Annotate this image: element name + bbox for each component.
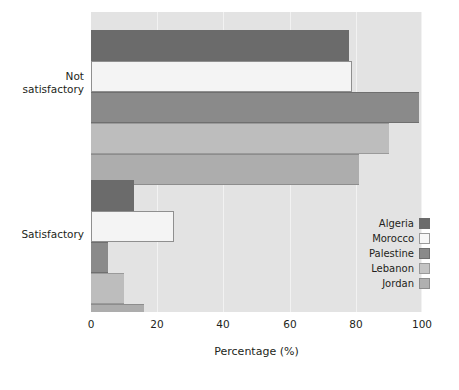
legend-item-lebanon: Lebanon xyxy=(330,261,430,276)
chart-figure: Not satisfactory Satisfactory 0 20 40 60… xyxy=(0,0,459,390)
bar-not-satisfactory-palestine xyxy=(91,92,419,123)
legend-swatch-jordan-icon xyxy=(419,278,430,289)
legend-item-jordan: Jordan xyxy=(330,276,430,291)
legend-item-palestine: Palestine xyxy=(330,246,430,261)
bar-not-satisfactory-algeria xyxy=(91,30,349,61)
legend-label-jordan: Jordan xyxy=(382,278,419,289)
legend-label-morocco: Morocco xyxy=(372,233,419,244)
bar-satisfactory-algeria xyxy=(91,180,134,211)
bar-satisfactory-lebanon xyxy=(91,273,124,304)
x-axis-line xyxy=(91,312,422,313)
x-axis-title: Percentage (%) xyxy=(91,345,422,358)
category-label-satisfactory: Satisfactory xyxy=(4,228,84,241)
bar-not-satisfactory-morocco xyxy=(91,61,352,92)
x-tick-label-20: 20 xyxy=(137,318,177,330)
category-label-not-satisfactory: Not satisfactory xyxy=(4,70,84,96)
bar-satisfactory-jordan xyxy=(91,304,144,312)
legend-swatch-lebanon-icon xyxy=(419,263,430,274)
legend-item-algeria: Algeria xyxy=(330,216,430,231)
legend-label-lebanon: Lebanon xyxy=(371,263,419,274)
x-tick-label-80: 80 xyxy=(336,318,376,330)
legend-swatch-algeria-icon xyxy=(419,218,430,229)
x-tick-label-0: 0 xyxy=(71,318,111,330)
legend-label-palestine: Palestine xyxy=(369,248,419,259)
legend-label-algeria: Algeria xyxy=(379,218,419,229)
bar-not-satisfactory-lebanon xyxy=(91,123,389,154)
x-tick-label-60: 60 xyxy=(270,318,310,330)
chart-legend: Algeria Morocco Palestine Lebanon Jordan xyxy=(330,216,430,291)
bar-satisfactory-palestine xyxy=(91,242,108,273)
legend-item-morocco: Morocco xyxy=(330,231,430,246)
x-tick-label-100: 100 xyxy=(402,318,442,330)
bar-satisfactory-morocco xyxy=(91,211,174,242)
legend-swatch-morocco-icon xyxy=(419,233,430,244)
legend-swatch-palestine-icon xyxy=(419,248,430,259)
x-tick-label-40: 40 xyxy=(203,318,243,330)
